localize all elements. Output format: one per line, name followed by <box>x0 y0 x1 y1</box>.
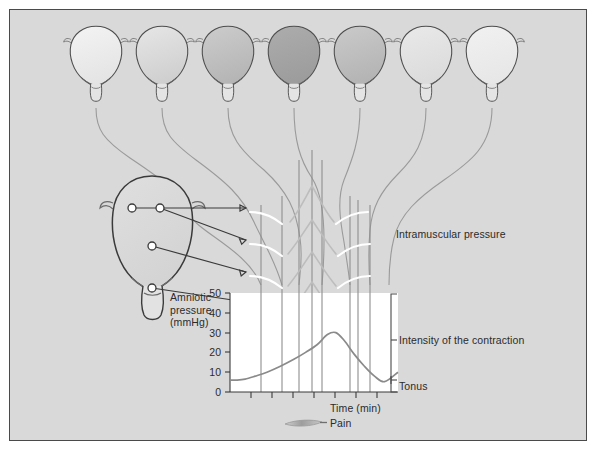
y-tick-0: 0 <box>203 386 221 398</box>
amniotic-pressure-chart <box>225 293 398 398</box>
y-tick-40: 40 <box>203 307 221 319</box>
y-tick-50: 50 <box>203 287 221 299</box>
electrode-upper-right <box>156 204 164 212</box>
electrode-lower <box>148 284 156 292</box>
figure-container: .utbody { stroke:#4d4d4d; stroke-width:1… <box>0 0 599 456</box>
intensity-of-contraction-label: Intensity of the contraction <box>399 334 524 346</box>
y-tick-10: 10 <box>203 366 221 378</box>
pain-lens-icon <box>285 420 322 426</box>
uterus-stage-3 <box>196 26 261 101</box>
uterus-stage-2 <box>130 26 195 101</box>
electrode-mid <box>148 242 156 250</box>
pain-label: Pain <box>330 417 351 429</box>
uterus-stage-4 <box>262 26 327 101</box>
figure-graphics: .utbody { stroke:#4d4d4d; stroke-width:1… <box>0 0 599 456</box>
electrode-upper-left <box>128 204 136 212</box>
time-axis-label: Time (min) <box>330 402 381 414</box>
uterus-stage-5 <box>328 26 393 101</box>
y-tick-30: 30 <box>203 327 221 339</box>
uterus-stage-7 <box>460 26 525 101</box>
tonus-label: Tonus <box>399 380 428 392</box>
pain-legend <box>285 420 327 426</box>
uterus-stage-1 <box>64 26 129 101</box>
uterus-sequence <box>64 26 525 101</box>
uterus-stage-6 <box>394 26 459 101</box>
intramuscular-pressure-label: Intramuscular pressure <box>396 228 506 240</box>
plot-area <box>230 293 398 392</box>
y-tick-20: 20 <box>203 346 221 358</box>
